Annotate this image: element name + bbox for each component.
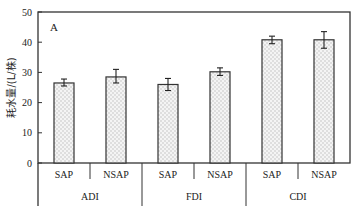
bar xyxy=(106,77,126,163)
y-tick-label: 50 xyxy=(22,7,32,18)
x-category-label: SAP xyxy=(263,169,282,180)
bar-chart: 01020304050耗水量/(L/株)ASAPNSAPSAPNSAPSAPNS… xyxy=(0,0,352,206)
x-category-label: NSAP xyxy=(207,169,233,180)
y-tick-label: 20 xyxy=(22,97,32,108)
x-group-label: FDI xyxy=(186,191,202,202)
y-axis-title: 耗水量/(L/株) xyxy=(5,57,17,117)
y-tick-label: 10 xyxy=(22,127,32,138)
x-group-label: CDI xyxy=(289,191,306,202)
y-tick-label: 0 xyxy=(27,158,32,169)
bars xyxy=(54,32,334,163)
x-category-label: NSAP xyxy=(103,169,129,180)
y-tick-label: 30 xyxy=(22,67,32,78)
x-category-label: SAP xyxy=(55,169,74,180)
bar xyxy=(158,84,178,163)
bar xyxy=(54,83,74,163)
panel-label: A xyxy=(50,21,58,33)
x-group-label: ADI xyxy=(81,191,99,202)
bar xyxy=(314,40,334,163)
plot-axes xyxy=(38,12,350,206)
bar xyxy=(210,72,230,163)
x-category-label: NSAP xyxy=(311,169,337,180)
bar xyxy=(262,40,282,163)
plot-frame xyxy=(38,12,350,163)
y-tick-label: 40 xyxy=(22,37,32,48)
x-category-label: SAP xyxy=(159,169,178,180)
